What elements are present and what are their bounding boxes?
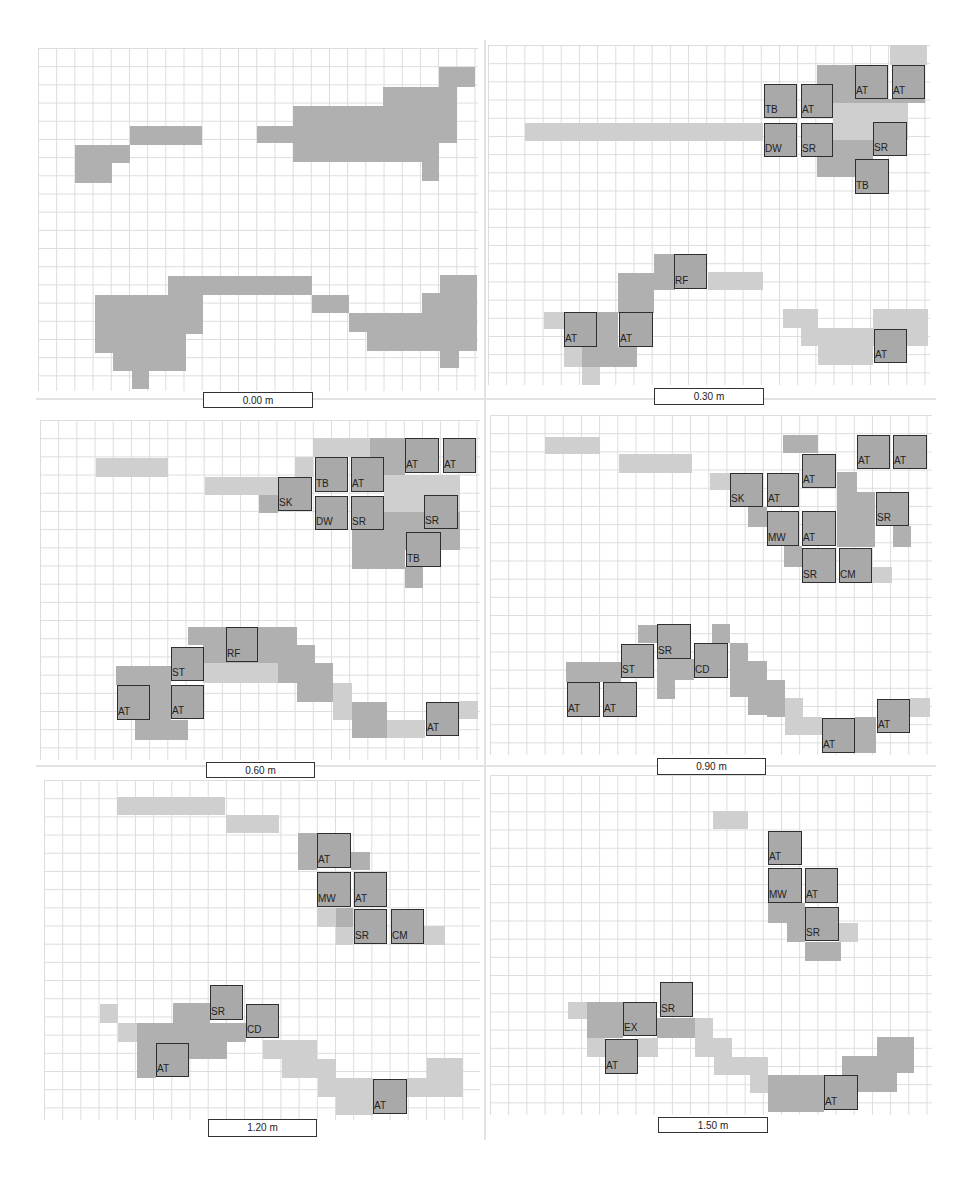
artifact-code: AT <box>568 704 580 714</box>
artifact-box: AT <box>426 702 459 736</box>
artifact-code: CD <box>695 665 709 675</box>
depth-label: 1.50 m <box>658 1117 768 1133</box>
artifact-box: SR <box>351 496 384 530</box>
dark-fill-cell <box>422 143 439 181</box>
artifact-box: CM <box>391 909 424 944</box>
dark-fill-cell <box>351 852 370 870</box>
artifact-box: SR <box>354 909 387 944</box>
artifact-box: DW <box>315 496 348 530</box>
artifact-box: AT <box>117 685 150 720</box>
artifact-code: SR <box>661 1004 675 1014</box>
dark-fill-cell <box>855 717 876 753</box>
light-fill-cell <box>313 438 370 457</box>
dark-fill-cell <box>278 645 315 663</box>
dark-fill-cell <box>259 495 278 513</box>
artifact-code: EX <box>624 1023 637 1033</box>
light-fill-cell <box>783 309 818 328</box>
artifact-box: SR <box>802 548 836 583</box>
artifact-code: AT <box>858 456 870 466</box>
artifact-code: TB <box>765 105 778 115</box>
light-fill-cell <box>710 473 730 490</box>
artifact-box: AT <box>564 312 597 347</box>
artifact-code: AT <box>823 740 835 750</box>
light-fill-cell <box>695 1038 732 1057</box>
artifact-code: AT <box>606 1061 618 1071</box>
light-fill-cell <box>803 717 822 735</box>
light-fill-cell <box>910 698 930 717</box>
artifact-box: AT <box>822 718 855 753</box>
artifact-code: SR <box>874 143 888 153</box>
artifact-code: AT <box>825 1097 837 1107</box>
dark-fill-cell <box>367 332 477 351</box>
dark-fill-cell <box>582 347 637 367</box>
dark-fill-cell <box>730 643 748 697</box>
dark-fill-cell <box>135 720 188 740</box>
artifact-code: RF <box>227 649 240 659</box>
light-fill-cell <box>587 1038 605 1057</box>
light-fill-cell <box>872 567 892 583</box>
depth-label: 0.00 m <box>203 392 313 408</box>
dark-fill-cell <box>657 680 675 699</box>
dark-fill-cell <box>748 661 767 715</box>
artifact-box: SR <box>876 492 909 526</box>
artifact-box: AT <box>443 438 476 473</box>
dark-fill-cell <box>784 546 802 567</box>
light-fill-cell <box>801 328 873 346</box>
artifact-box: AT <box>857 435 890 469</box>
artifact-code: SR <box>658 646 672 656</box>
artifact-code: AT <box>803 533 815 543</box>
artifact-code: AT <box>565 334 577 344</box>
dark-fill-cell <box>278 663 333 683</box>
light-fill-cell <box>203 663 278 683</box>
artifact-box: MW <box>317 872 351 907</box>
artifact-code: SK <box>279 498 292 508</box>
artifact-code: AT <box>620 334 632 344</box>
dark-fill-cell <box>855 99 925 103</box>
artifact-box: DW <box>764 123 797 157</box>
dark-fill-cell <box>330 143 422 162</box>
artifact-code: CM <box>840 570 856 580</box>
dark-fill-cell <box>130 126 202 145</box>
artifact-code: SR <box>352 517 366 527</box>
artifact-code: SR <box>877 513 891 523</box>
artifact-code: AT <box>769 852 781 862</box>
dark-fill-cell <box>893 526 911 547</box>
dark-fill-cell <box>657 659 694 680</box>
dark-fill-cell <box>654 254 675 290</box>
artifact-box: MW <box>767 511 799 546</box>
artifact-box: AT <box>874 329 907 363</box>
light-fill-cell <box>336 1097 373 1115</box>
artifact-code: AT <box>318 855 330 865</box>
artifact-code: AT <box>802 105 814 115</box>
artifact-code: AT <box>355 894 367 904</box>
dark-fill-cell <box>587 1002 623 1038</box>
dark-fill-cell <box>75 145 130 163</box>
artifact-code: AT <box>878 720 890 730</box>
artifact-code: AT <box>768 494 780 504</box>
light-fill-cell <box>839 923 858 942</box>
artifact-code: AT <box>894 456 906 466</box>
artifact-box: AT <box>767 473 799 507</box>
dark-fill-cell <box>137 1023 246 1042</box>
artifact-code: AT <box>118 707 130 717</box>
dark-fill-cell <box>748 507 767 527</box>
depth-label: 0.90 m <box>657 758 766 775</box>
artifact-code: RF <box>675 276 688 286</box>
light-fill-cell <box>568 1002 587 1019</box>
artifact-box: TB <box>764 84 797 118</box>
artifact-box: AT <box>354 872 387 907</box>
artifact-code: AT <box>157 1064 169 1074</box>
artifact-code: AT <box>406 460 418 470</box>
light-fill-cell <box>336 927 353 945</box>
dark-fill-cell <box>352 530 405 569</box>
artifact-code: MW <box>768 533 786 543</box>
artifact-box: AT <box>317 833 351 868</box>
artifact-box: AT <box>824 1075 858 1110</box>
artifact-code: AT <box>803 475 815 485</box>
light-fill-cell <box>785 698 803 735</box>
light-fill-cell <box>890 45 927 65</box>
dark-fill-cell <box>618 273 654 313</box>
artifact-box: AT <box>405 438 439 473</box>
light-fill-cell <box>100 1004 118 1023</box>
dark-fill-cell <box>767 680 785 717</box>
